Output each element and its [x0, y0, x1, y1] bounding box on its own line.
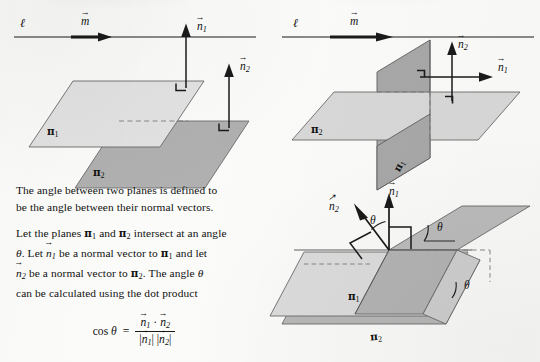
- vector-m-arrow: [330, 32, 393, 41]
- vector-n2-arrow: [224, 64, 234, 129]
- diagram-parallel-planes: ℓ →m π1 π2 →n1 →n2: [0, 4, 268, 182]
- label-angle-theta-normals: θ: [370, 214, 376, 226]
- label-vector-m: →m: [81, 15, 89, 27]
- arrow-glyph: →: [159, 309, 168, 318]
- label-normal-n2: →n2: [458, 38, 468, 52]
- label-vector-m: →m: [350, 15, 358, 27]
- paragraph-1: The angle between two planes is defined …: [16, 182, 252, 217]
- label-angle-theta-lower: θ: [464, 279, 470, 291]
- label-angle-theta-top: θ: [437, 221, 443, 233]
- plane-tilted-top: [389, 206, 530, 250]
- diagram-perpendicular-planes: ℓ →m π2 π1 →n2 →n1: [272, 4, 540, 190]
- vector-n1-arrow: [384, 193, 394, 250]
- arrow-glyph: →: [44, 238, 53, 247]
- inline-pi1: π1: [84, 227, 96, 239]
- vector-m-arrow: [71, 32, 112, 41]
- label-normal-n1: →n1: [498, 61, 508, 75]
- inline-theta-2: θ: [198, 267, 204, 279]
- label-normal-n2: ↗n2: [329, 200, 339, 214]
- inline-pi1-b: π1: [161, 247, 173, 259]
- diagram-oblique-planes: →n1 ↗n2 θ θ θ π1 π2: [276, 186, 540, 362]
- label-plane-pi2: π2: [93, 162, 105, 180]
- arrow-glyph: →: [350, 8, 359, 17]
- p1-line2: be the angle between their normal vector…: [16, 201, 213, 213]
- arrow-glyph: →: [139, 309, 148, 318]
- arrow-glyph: ↗: [328, 193, 336, 202]
- explanatory-text: The angle between two planes is defined …: [16, 182, 252, 303]
- arrow-glyph: →: [140, 326, 149, 335]
- formula-denominator: |→n1| |→n2|: [135, 331, 175, 347]
- vector-n1-arrow: [420, 72, 493, 82]
- label-plane-pi2: π2: [369, 326, 382, 345]
- label-plane-pi1: π1: [348, 286, 360, 304]
- label-line-l: ℓ: [293, 16, 298, 31]
- inline-vec-n1: →n1: [46, 247, 56, 259]
- formula-cos: cos θ: [93, 325, 117, 338]
- inline-pi2-b: π2: [131, 267, 143, 279]
- arrow-glyph: →: [14, 258, 23, 267]
- label-plane-pi1: π1: [47, 121, 59, 139]
- paragraph-2: Let the planes π1 and π2 intersect at an…: [16, 225, 252, 303]
- label-normal-n1: →n1: [389, 185, 399, 199]
- formula-equals: =: [123, 325, 130, 338]
- arrow-glyph: →: [238, 53, 247, 62]
- arrow-glyph: →: [81, 8, 90, 17]
- label-normal-n2: →n2: [240, 60, 250, 74]
- arrow-glyph: →: [195, 13, 204, 22]
- vector-n1-arrow: [181, 24, 191, 89]
- inline-vec-n2: →n2: [16, 267, 26, 279]
- label-normal-n1: →n1: [197, 20, 207, 34]
- label-line-l: ℓ: [20, 16, 25, 31]
- arrow-glyph: →: [157, 326, 166, 335]
- vector-n2-arrow: [354, 204, 389, 251]
- textbook-page: ℓ →m π1 π2 →n1 →n2: [0, 0, 540, 362]
- dot-product-formula: cos θ = →n1 · →n2 |→n1| |→n2|: [16, 316, 252, 347]
- formula-fraction: →n1 · →n2 |→n1| |→n2|: [135, 316, 175, 347]
- scan-artifact: [330, 0, 450, 2]
- p1-line1: The angle between two planes is defined …: [16, 184, 217, 196]
- arrow-glyph: →: [496, 54, 505, 63]
- arrow-glyph: →: [456, 31, 465, 40]
- label-plane-pi2: π2: [311, 119, 323, 137]
- inline-pi2: π2: [119, 227, 131, 239]
- arrow-glyph: →: [387, 178, 396, 187]
